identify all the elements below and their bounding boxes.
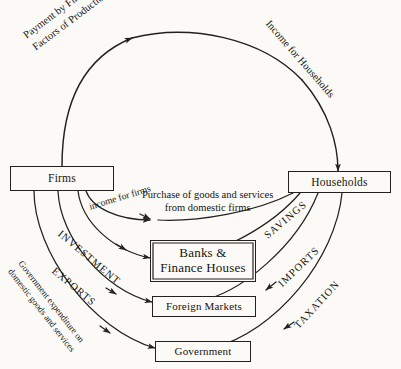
arrowhead-imports-seg [266, 282, 276, 290]
arc-government-expenditure [34, 191, 155, 348]
arrowhead-income-for-firms-seg [140, 214, 150, 219]
arc-investment [78, 191, 150, 258]
node-firms[interactable]: Firms [10, 166, 114, 191]
circular-flow-diagram: Firms Households Banks & Finance Houses … [0, 0, 401, 369]
node-banks-label: Banks & Finance Houses [160, 246, 245, 275]
node-foreign-markets[interactable]: Foreign Markets [152, 296, 256, 317]
arc-exports [58, 191, 152, 302]
node-government[interactable]: Government [155, 341, 251, 362]
arc-purchase-goods-services [158, 193, 293, 220]
node-government-label: Government [175, 345, 232, 357]
node-households-label: Households [311, 176, 367, 189]
node-foreign-markets-label: Foreign Markets [166, 300, 242, 312]
arrowhead-investment-seg [116, 244, 126, 250]
node-banks-finance-houses[interactable]: Banks & Finance Houses [150, 240, 256, 282]
node-firms-label: Firms [48, 172, 76, 185]
node-households[interactable]: Households [288, 171, 391, 193]
arc-income-for-households [302, 80, 338, 171]
arrowhead-govexp-seg [100, 326, 110, 333]
arrowhead-exports-seg [106, 288, 116, 294]
arrowhead-taxation-seg [284, 322, 294, 329]
arc-income-for-firms [86, 191, 150, 220]
arc-payment-for-factors-tail [132, 32, 302, 80]
arc-payment-for-factors [62, 38, 132, 166]
